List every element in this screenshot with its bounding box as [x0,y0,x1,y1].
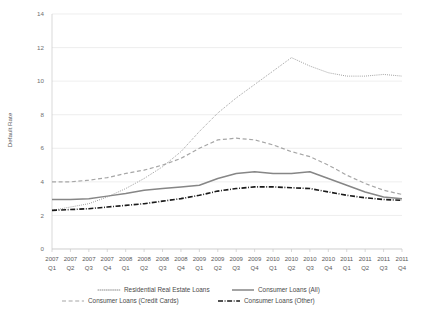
x-tick-year: 2010 [285,256,299,262]
legend-label-0: Residential Real Estate Loans [124,286,210,293]
x-tick-year: 2007 [82,256,96,262]
x-tick-year: 2009 [211,256,225,262]
x-tick-quarter: Q4 [103,265,112,271]
y-tick-label: 10 [37,77,44,84]
series-line-3 [52,187,402,211]
x-tick-quarter: Q2 [140,265,149,271]
x-axis-ticks: 2007Q12007Q22007Q32007Q42008Q12008Q22008… [45,256,409,271]
chart-container: 02468101214 2007Q12007Q22007Q32007Q42008… [0,0,421,318]
x-tick-year: 2007 [101,256,115,262]
x-tick-quarter: Q1 [343,265,352,271]
y-axis-ticks: 02468101214 [37,10,44,252]
x-tick-year: 2011 [377,256,391,262]
x-tick-quarter: Q2 [287,265,296,271]
legend-label-1: Consumer Loans (All) [258,286,320,294]
y-tick-label: 8 [41,111,45,118]
x-tick-quarter: Q3 [380,265,389,271]
x-tick-year: 2011 [340,256,354,262]
x-tick-quarter: Q4 [251,265,260,271]
x-tick-year: 2010 [322,256,336,262]
x-tick-quarter: Q3 [232,265,241,271]
x-tick-quarter: Q4 [177,265,186,271]
x-tick-quarter: Q3 [85,265,94,271]
x-tick-quarter: Q1 [195,265,204,271]
legend-label-2: Consumer Loans (Credit Cards) [88,297,179,305]
y-tick-label: 6 [41,144,45,151]
x-tick-year: 2008 [119,256,133,262]
gridlines [52,14,402,249]
x-tick-year: 2007 [45,256,59,262]
x-tick-year: 2007 [64,256,78,262]
x-tick-year: 2010 [266,256,280,262]
x-tick-year: 2011 [359,256,373,262]
y-tick-label: 14 [37,10,44,17]
x-tick-year: 2008 [156,256,170,262]
y-tick-label: 0 [41,245,45,252]
x-tick-quarter: Q4 [324,265,333,271]
x-tick-quarter: Q1 [48,265,57,271]
y-tick-label: 2 [41,212,45,219]
x-tick-quarter: Q2 [214,265,223,271]
series-lines [52,58,402,211]
default-rate-line-chart: 02468101214 2007Q12007Q22007Q32007Q42008… [0,0,421,318]
x-tick-quarter: Q4 [398,265,407,271]
x-tick-quarter: Q2 [361,265,370,271]
chart-legend: Residential Real Estate LoansConsumer Lo… [62,286,320,305]
x-tick-year: 2010 [303,256,317,262]
y-axis-label: Default Rate [6,112,13,147]
axis-lines [52,14,402,252]
x-tick-year: 2011 [396,256,410,262]
x-tick-quarter: Q1 [122,265,131,271]
x-tick-quarter: Q2 [66,265,75,271]
x-tick-year: 2009 [230,256,244,262]
y-tick-label: 12 [37,44,44,51]
x-tick-quarter: Q3 [159,265,168,271]
y-tick-label: 4 [41,178,45,185]
x-tick-quarter: Q1 [269,265,278,271]
y-axis-title: Default Rate [6,112,13,147]
x-tick-quarter: Q3 [306,265,315,271]
x-tick-year: 2008 [137,256,151,262]
legend-label-3: Consumer Loans (Other) [244,297,315,305]
x-tick-year: 2009 [248,256,262,262]
x-tick-year: 2008 [174,256,188,262]
series-line-0 [52,58,402,211]
x-tick-year: 2009 [193,256,207,262]
